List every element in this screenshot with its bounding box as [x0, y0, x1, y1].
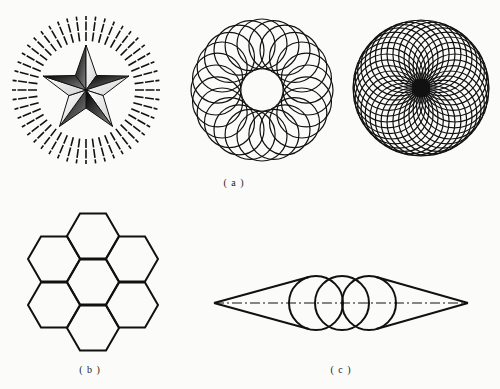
ray-line — [105, 135, 115, 158]
rosette-circle — [270, 32, 320, 82]
caption-b: ( b ) — [79, 364, 101, 375]
ray-line — [135, 96, 160, 99]
ray-line — [92, 17, 95, 42]
tangent-line — [376, 303, 468, 329]
caption-a: ( a ) — [223, 177, 244, 188]
star-icon — [43, 45, 129, 126]
center-disc — [412, 79, 430, 97]
ray-line — [131, 62, 154, 72]
rosette-circle — [237, 111, 287, 161]
rosette-circle — [204, 98, 254, 148]
ray-line — [99, 19, 105, 43]
caption-c: ( c ) — [330, 364, 351, 375]
rosette-circle — [191, 65, 241, 115]
hexagon-honeycomb-figure — [28, 213, 158, 350]
dense-rosette-figure — [353, 20, 489, 156]
tangent-line — [376, 277, 468, 303]
ray-line — [76, 17, 79, 42]
ray-line — [13, 96, 38, 99]
ray-line — [67, 137, 73, 161]
ray-line — [15, 103, 39, 109]
open-rosette-figure — [191, 19, 333, 161]
rosette-circle — [204, 32, 254, 82]
ray-line — [92, 139, 95, 164]
ray-line — [99, 137, 105, 161]
ray-line — [58, 135, 68, 158]
ray-line — [76, 139, 79, 164]
ray-line — [18, 62, 41, 72]
ray-line — [58, 22, 68, 45]
figure-canvas — [0, 0, 500, 389]
star-burst-figure — [12, 16, 160, 164]
ray-line — [67, 19, 73, 43]
ray-line — [105, 22, 115, 45]
ray-line — [13, 80, 38, 83]
tangent-line — [214, 303, 309, 329]
rosette-circle — [270, 98, 320, 148]
rosette-circle — [283, 65, 333, 115]
rosette-circle — [237, 19, 287, 69]
ray-line — [133, 103, 157, 109]
ray-line — [18, 109, 41, 119]
ray-line — [133, 71, 157, 77]
tangent-line — [214, 277, 309, 303]
ray-line — [131, 109, 154, 119]
tangent-circles-figure — [214, 276, 468, 330]
ray-line — [135, 80, 160, 83]
ray-line — [15, 71, 39, 77]
